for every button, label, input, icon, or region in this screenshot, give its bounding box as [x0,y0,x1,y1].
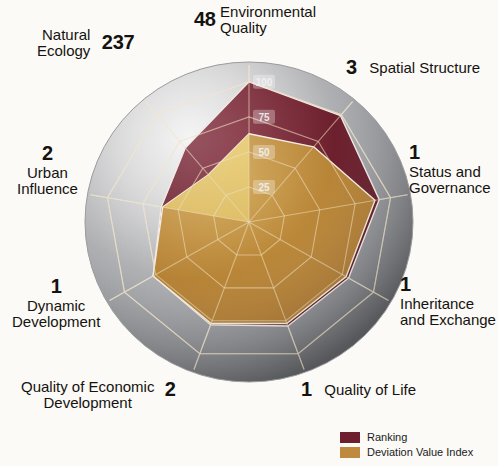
legend-item-ranking: Ranking [340,431,473,443]
axis-rank-natural-ecology: 237 [102,31,134,53]
radial-tick-50: 50 [253,145,275,159]
axis-rank-urban-influence: 2 [17,143,78,165]
svg-text:75: 75 [258,112,270,123]
axis-rank-environmental-quality: 48 [194,9,216,31]
axis-label-inheritance-and-exchange: 1 Inheritance and Exchange [400,274,496,328]
axis-name-environmental-quality: Environmental Quality [220,4,316,36]
axis-label-quality-of-life: 1 Quality of Life [301,379,416,401]
legend-swatch-deviation-value-index [340,447,360,458]
legend-swatch-ranking [340,432,360,443]
axis-rank-quality-of-economic-development: 2 [165,378,176,400]
axis-name-quality-of-life: Quality of Life [324,382,416,398]
axis-label-status-and-governance: 1 Status and Governance [409,142,491,196]
axis-name-inheritance-and-exchange: Inheritance and Exchange [400,296,496,328]
radial-tick-100: 100 [253,75,275,89]
axis-rank-status-and-governance: 1 [409,142,491,164]
axis-name-quality-of-economic-development: Quality of Economic Development [21,379,154,411]
radial-tick-25: 25 [253,180,275,194]
radial-tick-75: 75 [253,110,275,124]
sphere-shading [85,62,413,382]
svg-text:100: 100 [256,77,273,88]
legend-label-ranking: Ranking [367,431,407,443]
axis-name-status-and-governance: Status and Governance [409,164,491,196]
axis-name-urban-influence: Urban Influence [17,165,78,197]
axis-name-natural-ecology: Natural Ecology [37,27,90,59]
axis-rank-inheritance-and-exchange: 1 [400,274,496,296]
axis-label-quality-of-economic-development: Quality of Economic Development 2 [21,379,176,411]
axis-label-natural-ecology: Natural Ecology 237 [37,27,134,59]
axis-label-spatial-structure: 3 Spatial Structure [346,57,480,79]
legend-item-deviation-value-index: Deviation Value Index [340,446,473,458]
axis-rank-quality-of-life: 1 [301,379,312,401]
chart-legend: Ranking Deviation Value Index [340,431,473,461]
axis-name-spatial-structure: Spatial Structure [369,60,480,76]
axis-label-environmental-quality: 48 Environmental Quality [194,4,316,36]
axis-label-dynamic-development: 1 Dynamic Development [12,276,100,330]
svg-text:25: 25 [258,182,270,193]
axis-rank-dynamic-development: 1 [12,276,100,298]
svg-text:50: 50 [258,147,270,158]
axis-rank-spatial-structure: 3 [346,57,357,79]
axis-name-dynamic-development: Dynamic Development [12,298,100,330]
legend-label-deviation-value-index: Deviation Value Index [367,446,473,458]
axis-label-urban-influence: 2 Urban Influence [17,143,78,197]
radar-chart-page: 255075100 48 Environmental Quality 3 Spa… [0,0,498,466]
